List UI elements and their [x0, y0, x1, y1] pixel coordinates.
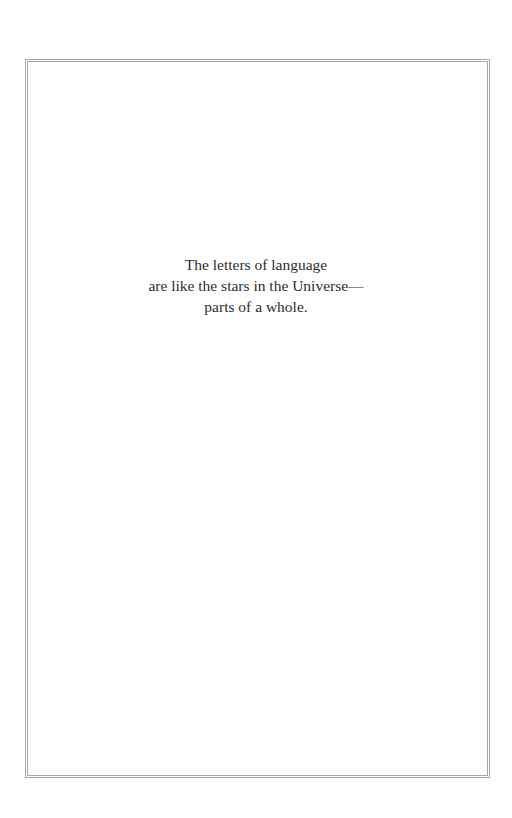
page-border-frame [25, 59, 490, 778]
epigraph-quote: The letters of language are like the sta… [0, 254, 512, 317]
epigraph-line: The letters of language [0, 254, 512, 275]
epigraph-line: parts of a whole. [0, 296, 512, 317]
epigraph-line: are like the stars in the Universe— [0, 275, 512, 296]
